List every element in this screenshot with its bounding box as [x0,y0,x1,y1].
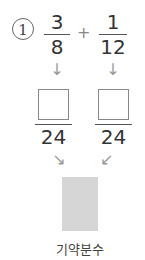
right-numerator-answer-box[interactable] [98,89,129,120]
down-arrow-icon: ↓ [47,62,67,78]
right-numerator: 1 [99,12,127,32]
right-common-denominator: 24 [95,127,132,147]
diagonal-arrow-right-icon: ↘ [50,152,68,168]
down-arrow-icon: ↓ [103,62,123,78]
left-common-denominator: 24 [35,127,72,147]
left-numerator-answer-box[interactable] [38,89,69,120]
result-label: 기약분수 [40,239,120,258]
diagonal-arrow-left-icon: ↙ [98,152,116,168]
problem-number: 1 [12,18,34,40]
plus-sign: + [77,23,90,42]
left-numerator: 3 [44,12,70,32]
right-denominator: 12 [99,37,127,57]
left-denominator: 8 [44,37,70,57]
result-answer-box[interactable] [62,177,98,231]
